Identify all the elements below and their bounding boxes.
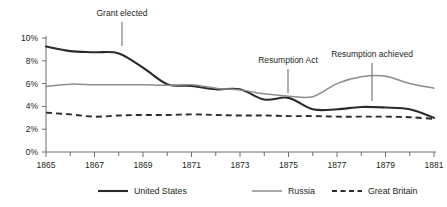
series-line-russia	[46, 76, 434, 98]
annotation-label: Grant elected	[96, 8, 147, 18]
chart-canvas: 0%2%4%6%8%10% 18651867186918711873187518…	[0, 0, 447, 207]
y-tick-label: 10%	[21, 33, 38, 43]
y-tick-label: 0%	[26, 147, 39, 157]
chart-legend: United StatesRussiaGreat Britain	[98, 186, 417, 196]
legend-label: Great Britain	[368, 186, 417, 196]
y-tick-label: 8%	[26, 56, 39, 66]
legend-label: Russia	[288, 186, 315, 196]
x-tick-label: 1869	[134, 160, 153, 170]
legend-label: United States	[134, 186, 187, 196]
legend-item-russia[interactable]: Russia	[252, 186, 315, 196]
x-tick-label: 1875	[279, 160, 298, 170]
x-tick-label: 1881	[425, 160, 444, 170]
x-tick-label: 1871	[182, 160, 201, 170]
y-tick-label: 6%	[26, 79, 39, 89]
legend-item-united-states[interactable]: United States	[98, 186, 187, 196]
x-tick-label: 1865	[37, 160, 56, 170]
y-axis-tick-labels: 0%2%4%6%8%10%	[21, 33, 38, 157]
x-axis-tick-labels: 186518671869187118731875187718791881	[37, 160, 444, 170]
x-tick-label: 1877	[328, 160, 347, 170]
y-tick-label: 2%	[26, 124, 39, 134]
annotation-label: Resumption Act	[258, 55, 318, 65]
chart-annotation-layer: Grant electedResumption ActResumption ac…	[96, 8, 413, 101]
y-tick-label: 4%	[26, 101, 39, 111]
x-axis-ticks	[46, 152, 434, 157]
legend-item-great-britain[interactable]: Great Britain	[332, 186, 417, 196]
series-line-great-britain	[46, 113, 434, 119]
line-chart: 0%2%4%6%8%10% 18651867186918711873187518…	[0, 0, 447, 207]
x-tick-label: 1873	[231, 160, 250, 170]
x-tick-label: 1867	[85, 160, 104, 170]
x-tick-label: 1879	[376, 160, 395, 170]
y-axis-ticks	[42, 38, 46, 152]
annotation-label: Resumption achieved	[331, 49, 413, 59]
